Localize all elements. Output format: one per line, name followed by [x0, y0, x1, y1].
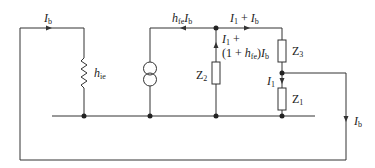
node-z2-bus	[214, 114, 219, 119]
label-hie: hie	[94, 66, 106, 81]
source-wire	[150, 28, 216, 116]
node-z3-z1	[280, 71, 285, 76]
label-ib-top: Ib	[43, 11, 52, 26]
node-top	[214, 26, 219, 31]
label-z1: Z1	[292, 92, 303, 107]
arrow-down-icon	[344, 116, 349, 122]
label-z2-branch-current-2: (1 + hfe)Ib	[222, 46, 269, 61]
arrow-right-icon	[46, 26, 52, 31]
label-ib-right: Ib	[353, 114, 362, 129]
z2-impedance	[212, 62, 220, 84]
z3-impedance	[278, 40, 286, 62]
label-z2-branch-current-1: I1 +	[221, 32, 240, 47]
arrow-left-icon	[180, 26, 186, 31]
label-hfe-ib: hfeIb	[172, 11, 192, 26]
label-z2: Z2	[196, 68, 207, 83]
label-z3: Z3	[292, 44, 303, 59]
circuit-diagram: Ib hie hfeIb I1 + Ib I1 + (1 + hfe)Ib Z3…	[0, 0, 375, 168]
z1-impedance	[278, 88, 286, 110]
node-source-bus	[148, 114, 153, 119]
label-i1-plus-ib: I1 + Ib	[229, 11, 259, 26]
arrow-down-icon	[280, 78, 285, 84]
arrow-right-icon	[244, 26, 250, 31]
hie-resistor	[81, 58, 87, 88]
node-z1-bus	[280, 114, 285, 119]
label-i1: I1	[266, 74, 275, 89]
node-hie-bus	[82, 114, 87, 119]
arrow-up-icon	[214, 42, 219, 48]
